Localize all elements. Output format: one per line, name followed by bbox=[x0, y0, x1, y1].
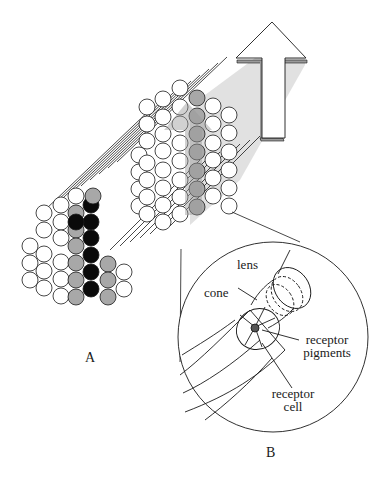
facet bbox=[83, 230, 99, 246]
facet bbox=[205, 135, 221, 151]
facet bbox=[36, 246, 52, 262]
facet bbox=[155, 143, 171, 159]
facet bbox=[22, 255, 38, 271]
facet bbox=[83, 247, 99, 263]
facet bbox=[205, 98, 221, 114]
facet bbox=[83, 264, 99, 280]
facet bbox=[155, 91, 171, 107]
facet bbox=[155, 214, 171, 230]
facet bbox=[221, 125, 237, 141]
facet bbox=[68, 214, 84, 230]
label-lens: lens bbox=[237, 258, 258, 271]
facet bbox=[116, 281, 132, 297]
facet bbox=[139, 116, 155, 132]
facet bbox=[36, 263, 52, 279]
facet bbox=[205, 188, 221, 204]
facet bbox=[22, 238, 38, 254]
facet bbox=[53, 271, 69, 287]
tube-edge bbox=[63, 93, 173, 198]
facet bbox=[100, 272, 116, 288]
facet bbox=[68, 255, 84, 271]
facet bbox=[155, 109, 171, 125]
facet bbox=[205, 170, 221, 186]
facet bbox=[155, 197, 171, 213]
facet bbox=[53, 254, 69, 270]
facet bbox=[83, 281, 99, 297]
facet bbox=[139, 206, 155, 222]
panel-label-b: B bbox=[266, 446, 275, 459]
panel-label-a: A bbox=[85, 351, 95, 364]
facet bbox=[221, 107, 237, 123]
label-receptor-cell: receptor cell bbox=[268, 387, 318, 413]
facet bbox=[68, 238, 84, 254]
facet bbox=[53, 197, 69, 213]
facet bbox=[36, 205, 52, 221]
facet bbox=[221, 180, 237, 196]
facet bbox=[139, 172, 155, 188]
diagram-svg bbox=[0, 0, 384, 478]
facet bbox=[221, 144, 237, 160]
facet bbox=[85, 188, 101, 204]
facet bbox=[172, 80, 188, 96]
facet bbox=[53, 230, 69, 246]
facet bbox=[139, 189, 155, 205]
facet bbox=[53, 288, 69, 304]
facet bbox=[83, 214, 99, 230]
facet bbox=[205, 152, 221, 168]
facet bbox=[100, 289, 116, 305]
facet bbox=[100, 256, 116, 272]
facet bbox=[36, 280, 52, 296]
facet bbox=[221, 162, 237, 178]
label-receptor-pigments-line2: pigments bbox=[302, 346, 352, 359]
facet bbox=[189, 90, 205, 106]
label-cone: cone bbox=[204, 286, 229, 299]
facet bbox=[68, 289, 84, 305]
facet bbox=[68, 272, 84, 288]
lower-facet-cluster bbox=[22, 188, 132, 305]
facet bbox=[139, 155, 155, 171]
label-receptor-cell-line2: cell bbox=[268, 400, 318, 413]
zoom-line-top bbox=[232, 212, 300, 242]
facet bbox=[36, 222, 52, 238]
label-receptor-pigments: receptor pigments bbox=[302, 333, 352, 359]
facet bbox=[139, 99, 155, 115]
facet bbox=[221, 198, 237, 214]
compound-eye-figure: lens cone receptor pigments receptor cel… bbox=[0, 0, 384, 478]
facet bbox=[68, 188, 84, 204]
facet bbox=[116, 264, 132, 280]
facet bbox=[22, 272, 38, 288]
facet bbox=[53, 214, 69, 230]
facet bbox=[155, 162, 171, 178]
facet bbox=[139, 133, 155, 149]
facet bbox=[155, 180, 171, 196]
